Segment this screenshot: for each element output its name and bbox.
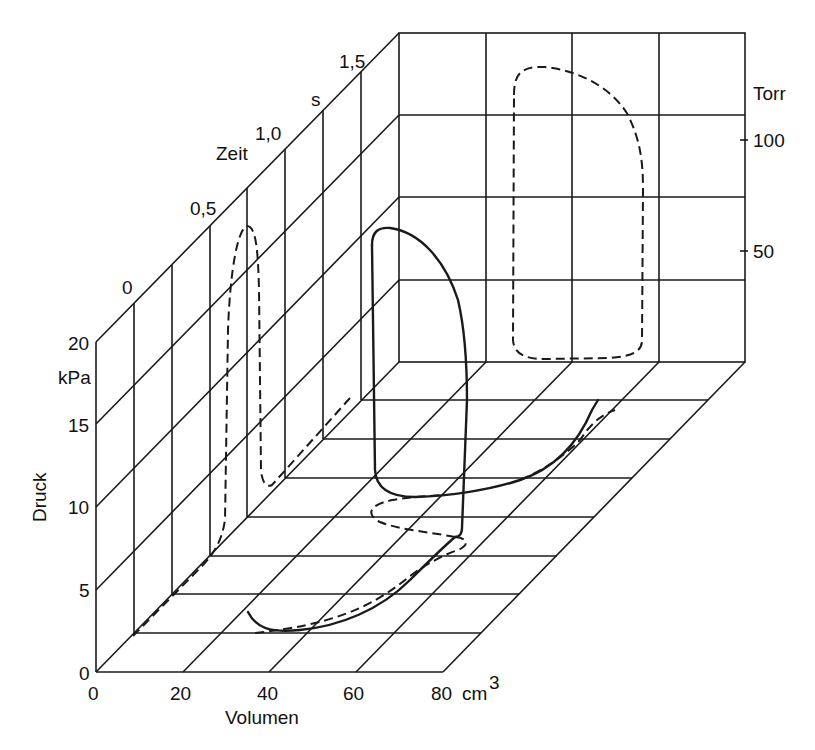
floor-dashed-loop <box>371 495 455 537</box>
volume-tick-60: 60 <box>343 683 364 704</box>
torr-tick-100: 100 <box>753 130 785 151</box>
back-wall-grid <box>399 33 748 362</box>
time-tick-1-5: 1,5 <box>339 51 365 72</box>
floor-dashed-tail <box>255 537 466 633</box>
chart-3d-pressure-volume-time: 20 kPa 15 10 5 0 Druck 0 20 40 60 80 cm … <box>0 0 815 750</box>
volume-tick-0: 0 <box>88 683 99 704</box>
pressure-unit-kpa: kPa <box>58 367 91 388</box>
pressure-tick-5: 5 <box>79 580 90 601</box>
time-tick-1-0: 1,0 <box>255 123 281 144</box>
volume-unit-exp: 3 <box>489 672 500 693</box>
pressure-tick-0: 0 <box>79 663 90 684</box>
volume-tick-80: 80 <box>431 683 452 704</box>
pressure-axis-label: Druck <box>29 472 50 522</box>
pressure-tick-15: 15 <box>68 415 89 436</box>
time-tick-0: 0 <box>122 277 133 298</box>
chart-canvas: 20 kPa 15 10 5 0 Druck 0 20 40 60 80 cm … <box>0 0 815 750</box>
pressure-tick-20: 20 <box>68 333 89 354</box>
back-wall-pv-loop <box>513 67 643 359</box>
torr-tick-50: 50 <box>753 241 774 262</box>
torr-unit: Torr <box>753 83 786 104</box>
floor-vt-curve-solid <box>248 537 455 631</box>
time-axis-label: Zeit <box>216 143 248 164</box>
volume-tick-40: 40 <box>257 683 278 704</box>
time-tick-0-5: 0,5 <box>190 198 216 219</box>
volume-axis-label: Volumen <box>225 707 299 728</box>
volume-unit-cm: cm <box>462 683 487 704</box>
left-wall-grid <box>96 33 399 672</box>
volume-tick-20: 20 <box>170 683 191 704</box>
pressure-tick-10: 10 <box>68 497 89 518</box>
left-wall-pt-curve <box>133 226 350 636</box>
time-unit-s: s <box>311 89 321 110</box>
